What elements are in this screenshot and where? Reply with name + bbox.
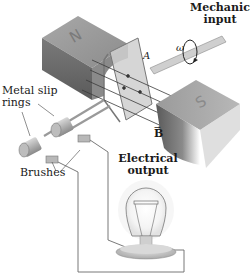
mechanical-input-line2: input (190, 14, 250, 26)
omega-label: ω (176, 42, 184, 54)
light-bulb-icon (116, 180, 176, 259)
slip-rings (19, 117, 74, 158)
shaft (150, 36, 226, 74)
ac-generator-diagram: Mechanical input ω A → B N S Metal slip … (0, 0, 250, 276)
mechanical-input-label: Mechanical input (190, 2, 250, 26)
brushes-label: Brushes (20, 167, 65, 179)
vector-arrow-icon: → (154, 121, 161, 133)
generator-illustration (0, 0, 250, 276)
slip-rings-line2: rings (2, 97, 58, 109)
brushes (46, 135, 90, 163)
b-field-label: → B (154, 128, 163, 140)
electrical-output-line2: output (118, 165, 178, 177)
area-label: A (143, 50, 150, 62)
electrical-output-label: Electrical output (118, 153, 178, 177)
slip-rings-label: Metal slip rings (2, 85, 58, 109)
